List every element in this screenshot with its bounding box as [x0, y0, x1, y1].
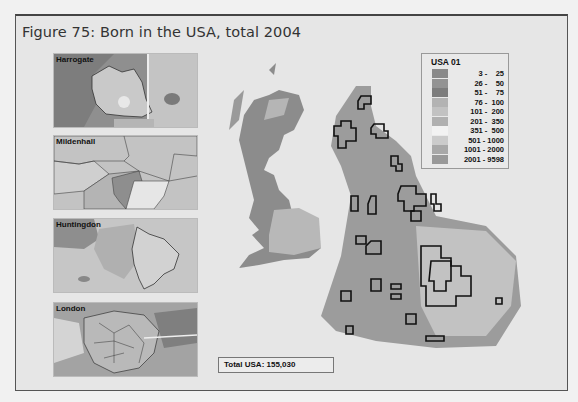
- legend-row: 101 - 200: [432, 107, 504, 116]
- legend-row: 76 - 100: [432, 98, 504, 107]
- legend-range: 3 - 25: [479, 69, 504, 78]
- legend-range: 76 - 100: [474, 98, 504, 107]
- legend-row: 26 - 50: [432, 79, 504, 88]
- legend-range: 101 - 200: [470, 107, 504, 116]
- legend-range: 501 - 1000: [468, 136, 504, 145]
- legend-range: 26 - 50: [474, 79, 504, 88]
- legend-swatch: [432, 136, 448, 145]
- inset-huntingdon: Huntingdon: [53, 218, 198, 293]
- inset-label: Huntingdon: [56, 220, 101, 229]
- inset-harrogate: Harrogate: [53, 53, 198, 128]
- legend-swatch: [432, 79, 448, 88]
- legend-range: 51 - 75: [474, 88, 504, 97]
- legend-range: 1001 - 2000: [464, 145, 504, 154]
- inset-label: London: [56, 304, 85, 313]
- legend-row: 2001 - 9598: [432, 155, 504, 164]
- legend-swatch: [432, 126, 448, 135]
- legend-row: 3 - 25: [432, 69, 504, 78]
- inset-label: Harrogate: [56, 55, 94, 64]
- inset-mildenhall: Mildenhall: [53, 135, 198, 210]
- legend-row: 351 - 500: [432, 126, 504, 135]
- huntingdon-map: [54, 219, 197, 292]
- legend-swatch: [432, 117, 448, 126]
- legend-row: 51 - 75: [432, 88, 504, 97]
- london-map: [54, 303, 197, 376]
- legend-swatch: [432, 107, 448, 116]
- figure-title: Figure 75: Born in the USA, total 2004: [22, 24, 301, 40]
- inset-label: Mildenhall: [56, 137, 95, 146]
- legend-swatch: [432, 155, 448, 164]
- legend-row: 1001 - 2000: [432, 145, 504, 154]
- legend-title: USA 01: [431, 57, 460, 67]
- legend-row: 201 - 350: [432, 117, 504, 126]
- harrogate-map: [54, 54, 197, 127]
- legend-swatch: [432, 88, 448, 97]
- map-legend: USA 01 3 - 25 26 - 50 51 - 75 76 - 100 1…: [421, 53, 509, 169]
- total-box: Total USA: 155,030: [218, 357, 334, 373]
- total-label: Total USA: 155,030: [224, 360, 295, 369]
- legend-range: 201 - 350: [470, 117, 504, 126]
- legend-swatch: [432, 69, 448, 78]
- legend-row: 501 - 1000: [432, 136, 504, 145]
- legend-range: 351 - 500: [470, 126, 504, 135]
- legend-swatch: [432, 145, 448, 154]
- inset-london: London: [53, 302, 198, 377]
- mildenhall-map: [54, 136, 197, 209]
- legend-swatch: [432, 98, 448, 107]
- legend-range: 2001 - 9598: [464, 155, 504, 164]
